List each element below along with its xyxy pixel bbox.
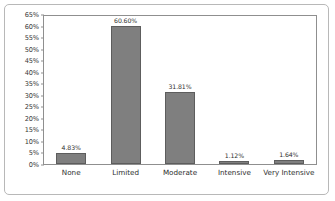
- y-axis-tick-label: 40%: [25, 69, 39, 77]
- bar-slot: 1.64%: [262, 16, 316, 164]
- y-axis-tick-label: 50%: [25, 46, 39, 54]
- x-axis-tick-label: Moderate: [163, 168, 197, 177]
- bar-series: 4.83%60.60%31.81%1.12%1.64%: [44, 16, 316, 164]
- bar-slot: 31.81%: [153, 16, 207, 164]
- bar-slot: 60.60%: [98, 16, 152, 164]
- bar[interactable]: [165, 92, 195, 164]
- x-axis-tick-label: None: [62, 168, 81, 177]
- bar-value-label: 4.83%: [62, 144, 81, 151]
- x-axis-tick-label: Very Intensive: [263, 168, 314, 177]
- x-axis-tick-label: Intensive: [218, 168, 251, 177]
- y-axis-tick-label: 45%: [25, 57, 39, 65]
- y-axis-tick-label: 5%: [29, 149, 39, 157]
- y-axis-tick-label: 60%: [25, 23, 39, 31]
- bar-value-label: 1.64%: [279, 151, 298, 158]
- bar-value-label: 60.60%: [114, 17, 137, 24]
- y-axis-tick-label: 10%: [25, 138, 39, 146]
- x-axis-tick-label: Limited: [112, 168, 139, 177]
- bar-value-label: 1.12%: [225, 152, 244, 159]
- bar[interactable]: [56, 153, 86, 164]
- bar[interactable]: [111, 26, 141, 164]
- y-axis-tick-label: 65%: [25, 11, 39, 19]
- y-axis-tick-label: 15%: [25, 126, 39, 134]
- y-axis-tick-label: 0%: [29, 161, 39, 169]
- y-axis-tick-label: 25%: [25, 103, 39, 111]
- y-axis-tick-label: 20%: [25, 115, 39, 123]
- bar[interactable]: [219, 161, 249, 164]
- bar[interactable]: [274, 160, 304, 164]
- bar-value-label: 31.81%: [168, 83, 191, 90]
- chart-card: 0%5%10%15%20%25%30%35%40%45%50%55%60%65%…: [4, 4, 329, 195]
- y-axis-tick-label: 55%: [25, 34, 39, 42]
- bar-slot: 4.83%: [44, 16, 98, 164]
- y-axis-tick-mark: [41, 165, 44, 166]
- y-axis: 0%5%10%15%20%25%30%35%40%45%50%55%60%65%: [9, 15, 43, 165]
- y-axis-tick-label: 30%: [25, 92, 39, 100]
- bar-slot: 1.12%: [207, 16, 261, 164]
- y-axis-tick-label: 35%: [25, 80, 39, 88]
- x-axis: NoneLimitedModerateIntensiveVery Intensi…: [44, 168, 316, 184]
